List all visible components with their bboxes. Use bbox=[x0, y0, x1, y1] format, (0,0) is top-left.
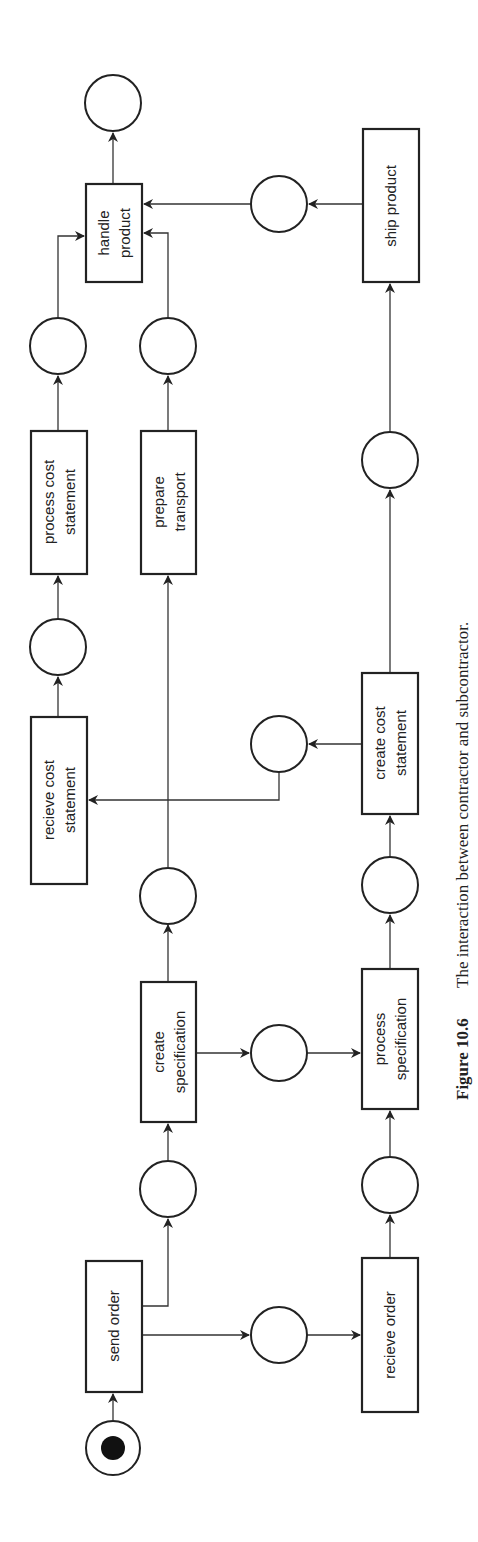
transition-create-cost-statement[interactable]: create cost statement bbox=[362, 673, 418, 814]
label-create-specification-2: specification bbox=[171, 1011, 188, 1094]
place-p1[interactable] bbox=[140, 1161, 196, 1217]
caption-number: Figure 10.6 bbox=[453, 1018, 472, 1100]
label-handle-product-2: product bbox=[116, 207, 133, 258]
arc-p-cost-msg-to-recieve-cost bbox=[89, 772, 279, 800]
place-start[interactable] bbox=[86, 1421, 140, 1475]
place-spec-msg[interactable] bbox=[251, 1025, 307, 1081]
label-process-cost-statement-2: statement bbox=[61, 468, 78, 535]
place-p7[interactable] bbox=[30, 318, 86, 374]
place-p2[interactable] bbox=[140, 868, 196, 924]
place-p5[interactable] bbox=[362, 432, 418, 488]
place-order-msg[interactable] bbox=[251, 1307, 307, 1363]
arc-send-order-to-p1 bbox=[142, 1219, 168, 1306]
label-prepare-transport-1: prepare bbox=[150, 476, 167, 528]
arc-p7-to-handle-product bbox=[58, 236, 84, 318]
label-recieve-cost-statement-2: statement bbox=[61, 766, 78, 833]
transition-send-order[interactable]: send order bbox=[86, 1261, 142, 1392]
token-icon bbox=[101, 1436, 125, 1460]
place-cost-msg[interactable] bbox=[251, 716, 307, 772]
transition-create-specification[interactable]: create specification bbox=[141, 982, 196, 1122]
place-p3[interactable] bbox=[362, 1157, 418, 1213]
label-create-cost-statement-1: create cost bbox=[371, 705, 388, 779]
label-handle-product-1: handle bbox=[95, 210, 112, 255]
place-end[interactable] bbox=[85, 75, 141, 131]
transition-prepare-transport[interactable]: prepare transport bbox=[141, 431, 196, 574]
place-p8[interactable] bbox=[140, 318, 196, 374]
place-ship-msg[interactable] bbox=[251, 176, 307, 232]
label-recieve-cost-statement-1: recieve cost bbox=[40, 759, 57, 840]
arc-p8-to-handle-product bbox=[144, 233, 168, 318]
figure-caption: Figure 10.6 The interaction between cont… bbox=[453, 622, 472, 1100]
label-process-cost-statement-1: process cost bbox=[40, 459, 57, 544]
transition-ship-product[interactable]: ship product bbox=[363, 129, 419, 282]
label-process-specification-1: process bbox=[371, 1013, 388, 1066]
transition-recieve-order[interactable]: recieve order bbox=[362, 1258, 418, 1412]
label-create-cost-statement-2: statement bbox=[392, 709, 409, 776]
place-p4[interactable] bbox=[362, 857, 418, 913]
label-send-order: send order bbox=[105, 1290, 122, 1362]
petri-net-diagram: send order recieve order create specific… bbox=[0, 0, 478, 1542]
label-create-specification-1: create bbox=[150, 1031, 167, 1073]
caption-text: The interaction between contractor and s… bbox=[453, 622, 472, 988]
label-recieve-order: recieve order bbox=[381, 1291, 398, 1379]
transition-recieve-cost-statement[interactable]: recieve cost statement bbox=[31, 717, 87, 884]
place-p6[interactable] bbox=[30, 619, 86, 675]
transition-process-specification[interactable]: process specification bbox=[362, 969, 418, 1109]
label-process-specification-2: specification bbox=[392, 998, 409, 1081]
transition-handle-product[interactable]: handle product bbox=[86, 184, 142, 282]
label-prepare-transport-2: transport bbox=[171, 472, 188, 532]
transition-process-cost-statement[interactable]: process cost statement bbox=[31, 431, 87, 574]
label-ship-product: ship product bbox=[382, 164, 399, 247]
